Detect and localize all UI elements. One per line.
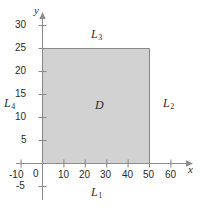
x-tick-label-minus10: -10 [9,170,23,180]
boundary-label-l2: L2 [163,97,174,109]
boundary-label-l1: L1 [91,186,102,198]
y-tick-label-20: 20 [15,66,26,76]
coordinate-plane-figure: y x 30 25 20 15 10 5 -5 -10 0 10 20 30 4… [0,0,201,208]
x-tick-label-60: 60 [165,170,176,180]
y-tick-label-30: 30 [15,20,26,30]
y-axis-label: y [34,5,39,16]
y-tick-label-10: 10 [15,112,26,122]
boundary-label-l2-base: L [163,96,170,110]
x-axis-label: x [188,164,193,175]
region-label-d: D [95,99,104,111]
y-tick-label-25: 25 [15,43,26,53]
y-tick-label-minus5: -5 [16,181,25,191]
boundary-label-l2-sub: 2 [170,102,174,111]
x-tick-label-50: 50 [143,170,154,180]
boundary-label-l1-base: L [91,185,98,199]
boundary-label-l4-base: L [4,96,11,110]
x-tick-label-0: 0 [33,169,39,179]
boundary-label-l4: L4 [4,97,15,109]
y-axis-arrowhead [39,12,45,19]
x-tick-label-30: 30 [100,170,111,180]
x-tick-label-10: 10 [58,170,69,180]
boundary-label-l3-base: L [91,27,98,41]
x-tick-label-40: 40 [122,170,133,180]
boundary-label-l3: L3 [91,28,102,40]
boundary-label-l3-sub: 3 [98,33,102,42]
boundary-label-l1-sub: 1 [98,191,102,200]
x-tick-label-20: 20 [79,170,90,180]
y-tick-label-15: 15 [15,89,26,99]
boundary-label-l4-sub: 4 [11,102,15,111]
y-tick-label-5: 5 [21,135,27,145]
